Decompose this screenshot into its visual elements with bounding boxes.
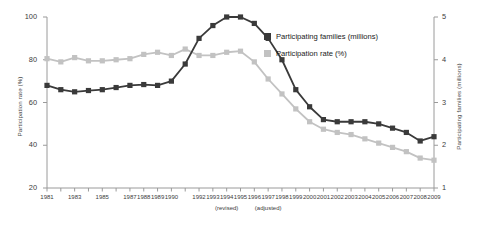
legend-item-participating-families: Participating families (millions) [264,32,378,41]
series-participation-rate [44,46,436,162]
y-axis-left-tick: 100 [15,12,37,21]
legend-item-participation-rate: Participation rate (%) [264,49,347,58]
y-axis-left-tick: 80 [15,55,37,64]
x-axis-annotation: (revised) [209,205,245,211]
y-axis-right-tick: 1 [442,183,464,192]
legend-label-participating-families: Participating families (millions) [276,32,378,41]
y-axis-right-tick: 4 [442,55,464,64]
x-axis-tick-1983: 1983 [63,194,87,200]
y-axis-right-tick: 3 [442,98,464,107]
chart-container: Participation rate (%) Participating fam… [0,0,477,229]
legend-label-participation-rate: Participation rate (%) [276,49,347,58]
legend-swatch-participation-rate [264,50,271,57]
y-axis-left-tick: 20 [15,183,37,192]
x-axis-annotation: (adjusted) [250,205,286,211]
y-axis-left-tick: 40 [15,140,37,149]
x-axis-tick-1981: 1981 [35,194,59,200]
x-axis-tick-1990: 1990 [159,194,183,200]
x-axis-tick-1985: 1985 [90,194,114,200]
legend-swatch-participating-families [264,33,271,40]
y-axis-right-tick: 5 [442,12,464,21]
y-axis-left-tick: 60 [15,98,37,107]
y-axis-right-tick: 2 [442,140,464,149]
x-axis-tick-2009: 2009 [422,194,446,200]
